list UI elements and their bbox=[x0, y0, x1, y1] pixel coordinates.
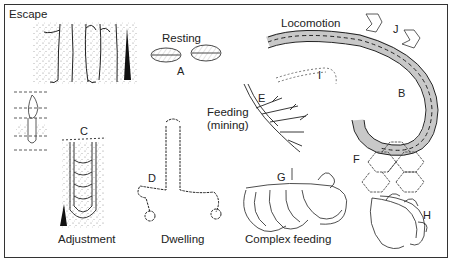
letter-i: I bbox=[318, 70, 321, 81]
spiral-h-illustration bbox=[370, 194, 427, 249]
letter-a: A bbox=[177, 66, 184, 77]
resting-illustration bbox=[151, 45, 221, 62]
letter-f: F bbox=[353, 154, 360, 165]
label-adjustment: Adjustment bbox=[58, 234, 116, 246]
label-resting: Resting bbox=[162, 33, 201, 45]
complex-feeding-illustration bbox=[244, 168, 347, 232]
letter-e: E bbox=[258, 93, 265, 104]
letter-g: G bbox=[277, 172, 286, 183]
trace-fossil-illustrations bbox=[0, 0, 454, 264]
letter-c: C bbox=[80, 126, 88, 137]
adjustment-illustration bbox=[60, 138, 106, 228]
label-feeding-mining-line1: Feeding bbox=[207, 107, 249, 119]
feeding-mining-illustration bbox=[244, 84, 308, 152]
trail-i-illustration bbox=[276, 68, 336, 84]
label-escape: Escape bbox=[9, 9, 47, 21]
label-complex-feeding: Complex feeding bbox=[245, 234, 331, 246]
dwelling-illustration bbox=[138, 119, 221, 221]
letter-j: J bbox=[393, 24, 399, 35]
letter-b: B bbox=[398, 88, 405, 99]
locomotion-illustration bbox=[268, 30, 438, 155]
label-feeding-mining-line2: (mining) bbox=[207, 120, 249, 132]
escape-detail-illustration bbox=[14, 92, 48, 150]
escape-illustration bbox=[33, 22, 137, 84]
label-dwelling: Dwelling bbox=[161, 234, 204, 246]
label-locomotion: Locomotion bbox=[281, 18, 340, 30]
letter-d: D bbox=[148, 173, 156, 184]
letter-h: H bbox=[423, 210, 431, 221]
